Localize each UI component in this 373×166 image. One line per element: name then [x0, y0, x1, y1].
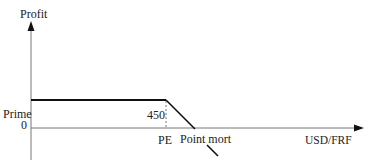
premium-label: Prime	[3, 108, 32, 120]
strike-label: PE	[158, 134, 172, 146]
declining-line	[166, 100, 195, 129]
x-axis-arrow-icon	[354, 125, 364, 132]
strike-value-label: 450	[147, 109, 165, 121]
zero-label: 0	[21, 119, 27, 131]
x-axis-label: USD/FRF	[305, 135, 352, 147]
y-axis-arrow-icon	[28, 21, 35, 31]
y-axis-label: Profit	[20, 8, 47, 20]
breakeven-label: Point mort	[180, 133, 231, 145]
declining-line-continued	[207, 145, 218, 156]
